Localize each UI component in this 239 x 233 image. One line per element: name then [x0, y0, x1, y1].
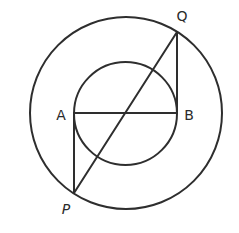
geometry-diagram: A B P Q	[0, 0, 239, 233]
point-label-a: A	[56, 107, 66, 123]
point-label-p: P	[62, 201, 71, 217]
point-label-q: Q	[176, 8, 187, 24]
point-label-b: B	[184, 107, 194, 123]
